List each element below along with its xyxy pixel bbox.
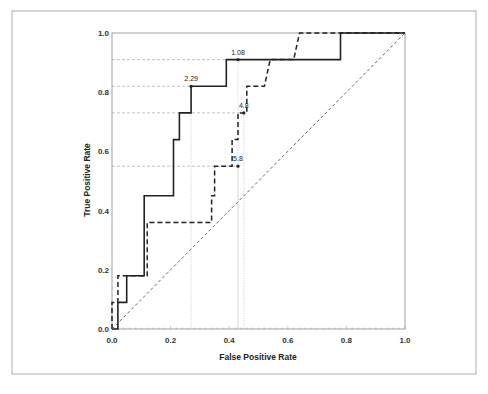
roc-chart: 0.00.20.40.60.81.00.00.20.40.60.81.02.29… (0, 0, 488, 394)
y-tick-label: 0.6 (98, 147, 110, 156)
y-tick-label: 0.2 (98, 266, 110, 275)
threshold-label: 5.8 (233, 155, 243, 162)
x-tick-label: 0.4 (224, 336, 236, 345)
threshold-marker (236, 58, 239, 61)
threshold-label: 1.08 (231, 49, 245, 56)
threshold-label: 2.29 (184, 75, 198, 82)
x-tick-label: 0.2 (165, 336, 177, 345)
y-tick-label: 0.8 (98, 88, 110, 97)
y-tick-label: 0.0 (98, 325, 110, 334)
x-axis-title: False Positive Rate (219, 352, 297, 362)
x-tick-label: 1.0 (399, 336, 411, 345)
threshold-marker (242, 111, 245, 114)
x-tick-label: 0.0 (106, 336, 118, 345)
roc-curve-chance (112, 33, 405, 329)
y-axis-title: True Positive Rate (82, 143, 92, 217)
y-tick-label: 0.4 (98, 207, 110, 216)
y-tick-label: 1.0 (98, 29, 110, 38)
x-tick-label: 0.6 (282, 336, 294, 345)
threshold-label: 4.8 (239, 102, 249, 109)
threshold-marker (190, 85, 193, 88)
plot-area: 0.00.20.40.60.81.00.00.20.40.60.81.02.29… (98, 29, 411, 345)
x-tick-label: 0.8 (341, 336, 353, 345)
threshold-marker (236, 165, 239, 168)
